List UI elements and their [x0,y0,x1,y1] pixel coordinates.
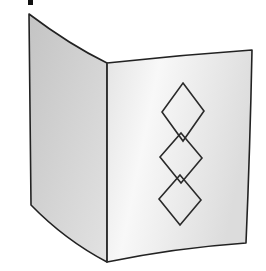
folded-card-illustration [0,0,266,271]
card-front-panel [107,50,252,262]
corner-mark [28,0,33,5]
card-left-panel [29,14,107,262]
